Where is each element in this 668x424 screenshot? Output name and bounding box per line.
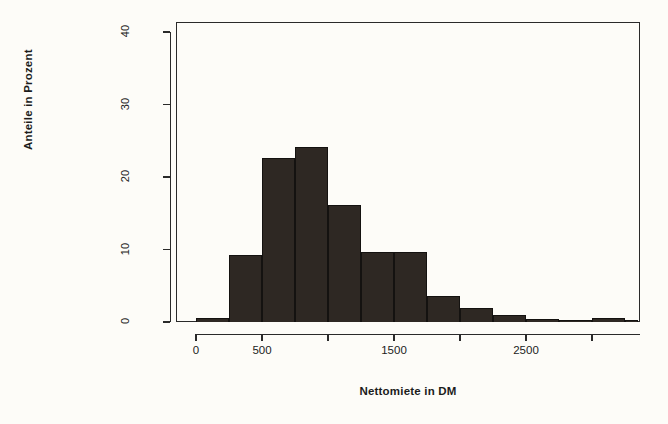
y-axis-tick bbox=[163, 321, 170, 322]
histogram-bar bbox=[526, 319, 559, 322]
y-axis-tick bbox=[163, 249, 170, 250]
histogram-bar bbox=[361, 252, 394, 322]
x-axis-tick-label: 1500 bbox=[374, 344, 414, 356]
histogram-bar bbox=[493, 315, 526, 322]
histogram-bar bbox=[394, 252, 427, 322]
y-axis-title: Anteile in Prozent bbox=[22, 0, 44, 150]
histogram-bar bbox=[592, 318, 625, 322]
histogram-bar bbox=[460, 308, 493, 323]
histogram-figure: Anteile in Prozent 010203040 05001500250… bbox=[0, 0, 668, 424]
y-axis-tick-label: 40 bbox=[119, 18, 131, 44]
y-axis-tick-label: 20 bbox=[119, 163, 131, 189]
histogram-bar bbox=[262, 158, 295, 322]
x-axis-tick-label: 0 bbox=[176, 344, 216, 356]
x-axis-tick bbox=[327, 334, 328, 341]
y-axis-tick-label: 10 bbox=[119, 236, 131, 262]
x-axis-title: Nettomiete in DM bbox=[176, 385, 640, 397]
histogram-bar bbox=[295, 147, 328, 322]
histogram-bars bbox=[176, 22, 639, 322]
x-axis-tick bbox=[525, 334, 526, 341]
x-axis-tick bbox=[591, 334, 592, 341]
histogram-bar bbox=[196, 318, 229, 322]
y-axis-tick bbox=[163, 104, 170, 105]
x-axis-tick bbox=[261, 334, 262, 341]
x-axis-tick-label: 2500 bbox=[506, 344, 546, 356]
x-axis-tick bbox=[459, 334, 460, 341]
x-axis-tick-label: 500 bbox=[242, 344, 282, 356]
histogram-bar bbox=[427, 296, 460, 322]
histogram-bar bbox=[559, 320, 592, 322]
histogram-bar bbox=[229, 255, 262, 322]
x-axis-tick bbox=[393, 334, 394, 341]
histogram-bar bbox=[328, 205, 361, 322]
y-axis-tick-label: 30 bbox=[119, 91, 131, 117]
histogram-bar bbox=[625, 320, 638, 322]
y-axis-tick-label: 0 bbox=[119, 308, 131, 334]
y-axis-tick bbox=[163, 31, 170, 32]
y-axis-tick bbox=[163, 176, 170, 177]
x-axis-tick bbox=[195, 334, 196, 341]
y-axis-line bbox=[170, 32, 171, 322]
